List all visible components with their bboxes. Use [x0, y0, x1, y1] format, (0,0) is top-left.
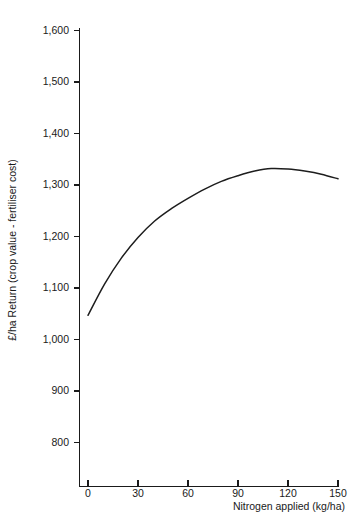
x-axis-title: Nitrogen applied (kg/ha) [233, 500, 345, 512]
chart-figure: 8009001,0001,1001,2001,3001,4001,5001,60… [0, 0, 354, 532]
y-tick-label: 1,600 [43, 24, 69, 36]
y-tick-label: 1,400 [43, 127, 69, 139]
x-tick-label: 90 [232, 487, 244, 499]
x-axis-ticks: 0306090120150 [85, 480, 347, 499]
x-tick-label: 150 [329, 487, 347, 499]
y-axis-title: £/ha Return (crop value - fertiliser cos… [6, 159, 18, 340]
y-tick-label: 900 [51, 384, 69, 396]
x-tick-label: 0 [85, 487, 91, 499]
line-chart-svg: 8009001,0001,1001,2001,3001,4001,5001,60… [0, 0, 354, 532]
x-tick-label: 120 [279, 487, 297, 499]
x-tick-label: 30 [132, 487, 144, 499]
y-tick-label: 1,100 [43, 281, 69, 293]
y-axis-ticks: 8009001,0001,1001,2001,3001,4001,5001,60… [43, 24, 80, 448]
y-tick-label: 1,000 [43, 333, 69, 345]
y-tick-label: 1,300 [43, 178, 69, 190]
data-series-line [88, 168, 338, 315]
x-tick-label: 60 [182, 487, 194, 499]
y-tick-label: 800 [51, 436, 69, 448]
y-tick-label: 1,500 [43, 75, 69, 87]
y-tick-label: 1,200 [43, 230, 69, 242]
